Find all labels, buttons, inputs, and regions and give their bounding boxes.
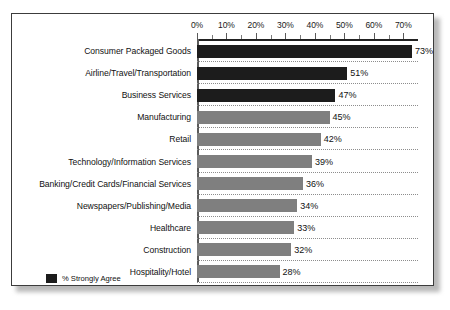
row-separator	[197, 238, 418, 240]
category-label: Consumer Packaged Goods	[84, 46, 191, 56]
bar[interactable]	[197, 45, 412, 58]
x-tick-label: 0%	[191, 20, 203, 30]
bar[interactable]	[197, 133, 321, 146]
x-tick-label: 20%	[248, 20, 265, 30]
bar-row: Consumer Packaged Goods73%	[197, 45, 418, 58]
bar-value-label: 47%	[335, 90, 356, 100]
bar-row: Manufacturing45%	[197, 111, 418, 124]
row-separator	[197, 194, 418, 196]
bar-row: Banking/Credit Cards/Financial Services3…	[197, 177, 418, 190]
category-label: Newspapers/Publishing/Media	[77, 201, 191, 211]
x-tick-major	[344, 33, 345, 39]
x-tick-major	[197, 33, 198, 39]
x-tick-major	[403, 33, 404, 39]
row-separator	[197, 105, 418, 107]
bar-row: Business Services47%	[197, 89, 418, 102]
bar-value-label: 45%	[330, 112, 351, 122]
row-separator	[197, 83, 418, 85]
category-label: Technology/Information Services	[68, 157, 191, 167]
chart-figure: 0%10%20%30%40%50%60%70% Consumer Package…	[0, 0, 450, 310]
x-tick-label: 30%	[277, 20, 294, 30]
x-tick-major	[374, 33, 375, 39]
category-label: Manufacturing	[137, 112, 191, 122]
bar-row: Technology/Information Services39%	[197, 155, 418, 168]
bar-value-label: 34%	[297, 201, 318, 211]
x-tick-major	[256, 33, 257, 39]
plot-area: 0%10%20%30%40%50%60%70% Consumer Package…	[197, 39, 418, 282]
row-separator	[197, 172, 418, 174]
category-label: Healthcare	[150, 223, 191, 233]
x-tick-minor	[271, 35, 272, 39]
bar-row: Construction32%	[197, 243, 418, 256]
bar[interactable]	[197, 89, 335, 102]
x-tick-label: 70%	[395, 20, 412, 30]
row-separator	[197, 282, 418, 284]
category-label: Retail	[169, 134, 191, 144]
category-label: Business Services	[122, 90, 191, 100]
x-tick-label: 50%	[336, 20, 353, 30]
bar[interactable]	[197, 67, 347, 80]
bar-value-label: 33%	[294, 223, 315, 233]
bar-value-label: 42%	[321, 134, 342, 144]
row-separator	[197, 127, 418, 129]
bar[interactable]	[197, 265, 280, 278]
legend-label-strongly-agree: % Strongly Agree	[62, 274, 121, 283]
bar-value-label: 39%	[312, 157, 333, 167]
x-tick-minor	[359, 35, 360, 39]
chart-legend: % Strongly Agree	[46, 274, 121, 283]
bar-row: Hospitality/Hotel28%	[197, 265, 418, 278]
row-separator	[197, 149, 418, 151]
x-tick-major	[315, 33, 316, 39]
row-separator	[197, 216, 418, 218]
bar-value-label: 32%	[291, 245, 312, 255]
legend-swatch-strongly-agree	[46, 274, 57, 283]
x-tick-major	[285, 33, 286, 39]
bar-value-label: 28%	[280, 267, 301, 277]
bar[interactable]	[197, 199, 297, 212]
row-separator	[197, 61, 418, 63]
bar-row: Retail42%	[197, 133, 418, 146]
x-tick-minor	[330, 35, 331, 39]
x-tick-minor	[212, 35, 213, 39]
category-label: Construction	[143, 245, 191, 255]
x-tick-minor	[300, 35, 301, 39]
bar[interactable]	[197, 155, 312, 168]
bar-value-label: 51%	[347, 68, 368, 78]
x-axis-line	[197, 39, 418, 41]
x-tick-label: 60%	[365, 20, 382, 30]
x-tick-minor	[389, 35, 390, 39]
bar[interactable]	[197, 243, 291, 256]
bar-value-label: 36%	[303, 179, 324, 189]
category-label: Hospitality/Hotel	[130, 267, 191, 277]
bar[interactable]	[197, 221, 294, 234]
bar-value-label: 73%	[412, 46, 433, 56]
chart-frame: 0%10%20%30%40%50%60%70% Consumer Package…	[11, 13, 434, 286]
bar[interactable]	[197, 111, 330, 124]
x-tick-major	[226, 33, 227, 39]
x-tick-label: 40%	[307, 20, 324, 30]
row-separator	[197, 260, 418, 262]
bar-row: Healthcare33%	[197, 221, 418, 234]
bar[interactable]	[197, 177, 303, 190]
bar-row: Airline/Travel/Transportation51%	[197, 67, 418, 80]
x-tick-label: 10%	[218, 20, 235, 30]
x-tick-minor	[241, 35, 242, 39]
category-label: Airline/Travel/Transportation	[85, 68, 191, 78]
category-label: Banking/Credit Cards/Financial Services	[39, 179, 191, 189]
bar-row: Newspapers/Publishing/Media34%	[197, 199, 418, 212]
